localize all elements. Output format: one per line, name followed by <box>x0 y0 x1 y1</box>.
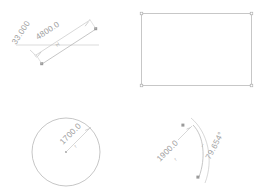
extension-line-end <box>90 19 97 29</box>
sketch-drawing-area[interactable]: 4800.0 H 33.000 1700.0 <box>0 0 267 191</box>
rectangle-corner-top-right[interactable] <box>250 12 253 15</box>
arc-figure[interactable]: 1900.0 r ↔ 79.654° <box>155 118 226 183</box>
line-length-label: 4800.0 <box>34 20 61 42</box>
linear-dimension-symbol: H <box>54 41 61 48</box>
rectangle-corner-top-left[interactable] <box>140 12 143 15</box>
arc-end-point[interactable] <box>196 176 199 179</box>
extension-line-start <box>36 54 43 64</box>
circle-figure[interactable]: 1700.0 r <box>32 118 100 186</box>
cad-sketch-canvas[interactable]: 4800.0 H 33.000 1700.0 <box>0 0 267 191</box>
arc-angle-symbol: ↔ <box>198 141 206 148</box>
circle-radius-label: 1700.0 <box>58 121 83 146</box>
arc-start-point[interactable] <box>181 124 184 127</box>
arc-angle-label: 79.654° <box>204 130 226 160</box>
rectangle-corner-bottom-right[interactable] <box>250 84 253 87</box>
angle-dimension-arc <box>30 50 37 58</box>
rectangle-corner-bottom-left[interactable] <box>140 84 143 87</box>
line-figure[interactable]: 4800.0 H 33.000 <box>10 19 99 65</box>
rectangle-outline[interactable] <box>142 14 252 86</box>
arc-radius-symbol: r <box>172 156 178 162</box>
circle-radius-symbol: r <box>72 143 78 149</box>
rect-figure[interactable] <box>140 12 253 87</box>
arc-outline[interactable] <box>193 125 203 177</box>
line-angle-label: 33.000 <box>10 19 32 46</box>
